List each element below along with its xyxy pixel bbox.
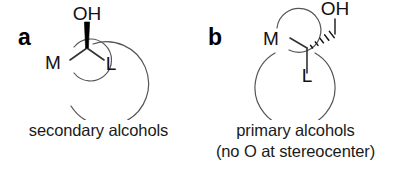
panel-b-bond-to-medium-group	[290, 38, 307, 48]
panel-a-bond-to-large-group	[87, 48, 104, 60]
panel-a-bold-wedge-to-hydroxyl	[84, 22, 89, 48]
panel-b-medium-group-label: M	[263, 28, 279, 49]
panel-a-large-group-label: L	[106, 53, 117, 74]
panel-a-bond-to-medium-group	[70, 48, 87, 60]
panel-b-large-group-label: L	[302, 65, 313, 86]
panel-b-hydroxyl-label: OH	[321, 0, 350, 19]
panel-a-hydroxyl-label: OH	[73, 3, 102, 24]
panel-b-primary-alcohols: b OH M L	[197, 0, 394, 172]
panel-b-structure: OH M L	[197, 0, 394, 120]
panel-a-medium-group-label: M	[45, 52, 61, 73]
panel-b-caption-line-1: primary alcohols	[197, 120, 394, 141]
panel-a-caption: secondary alcohols	[0, 120, 197, 141]
panel-b-medium-group-circle	[277, 8, 321, 52]
panel-a-caption-line-1: secondary alcohols	[0, 120, 197, 141]
panel-b-large-group-circle	[255, 53, 335, 120]
panel-b-caption: primary alcohols (no O at stereocenter)	[197, 120, 394, 162]
panel-a-secondary-alcohols: a OH M L secondary alcohols	[0, 0, 197, 172]
figure-container: a OH M L secondary alcohols b	[0, 0, 394, 172]
panel-a-structure: OH M L	[0, 0, 197, 120]
panel-b-caption-line-2: (no O at stereocenter)	[197, 141, 394, 162]
